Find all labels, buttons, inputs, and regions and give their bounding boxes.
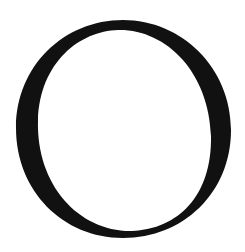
letter-o-icon: O: [0, 0, 245, 252]
letter-o-glyph: O: [0, 0, 245, 252]
